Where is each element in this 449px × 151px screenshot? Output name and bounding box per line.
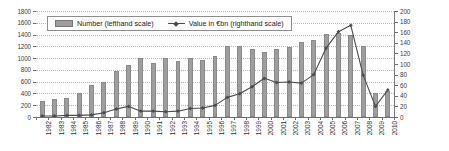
- line-marker-swatch-icon: [168, 20, 185, 27]
- category-label: 2008: [366, 121, 373, 135]
- category-tick-mark: [110, 117, 111, 120]
- right-axis-tick-mark: [395, 11, 398, 12]
- category-label: 2007: [354, 121, 361, 135]
- category-label: 1998: [243, 121, 250, 135]
- right-axis-tick-mark: [395, 53, 398, 54]
- category-tick-mark: [382, 117, 383, 120]
- line-marker: [188, 107, 192, 111]
- right-axis-tick-label: 180: [400, 18, 410, 25]
- right-axis-tick-mark: [395, 64, 398, 65]
- right-axis-tick-mark: [395, 106, 398, 107]
- category-tick-mark: [196, 117, 197, 120]
- left-axis-tick-label: 1600: [0, 19, 31, 26]
- line-marker: [127, 105, 131, 109]
- left-axis-tick-label: 1800: [0, 8, 31, 15]
- category-label: 1983: [58, 121, 65, 135]
- line-marker: [65, 114, 69, 117]
- right-axis-tick-mark: [395, 43, 398, 44]
- line-marker: [53, 114, 57, 117]
- category-label: 1991: [156, 121, 163, 135]
- right-axis-tick-mark: [395, 75, 398, 76]
- category-tick-mark: [98, 117, 99, 120]
- line-marker: [40, 114, 44, 117]
- right-axis-tick-label: 60: [400, 82, 407, 89]
- category-label: 2009: [378, 121, 385, 135]
- category-label: 1994: [193, 121, 200, 135]
- category-tick-mark: [332, 117, 333, 120]
- category-tick-mark: [234, 117, 235, 120]
- right-axis-tick-label: 20: [400, 103, 407, 110]
- category-tick-mark: [320, 117, 321, 120]
- category-label: 2002: [292, 121, 299, 135]
- left-axis-tick-label: 800: [0, 66, 31, 73]
- category-tick-mark: [246, 117, 247, 120]
- category-label: 1999: [255, 121, 262, 135]
- category-tick-mark: [48, 117, 49, 120]
- category-label: 1988: [119, 121, 126, 135]
- line-marker: [275, 81, 279, 85]
- category-tick-mark: [394, 117, 395, 120]
- right-axis-tick-mark: [395, 32, 398, 33]
- line-marker: [164, 110, 168, 114]
- category-tick-mark: [308, 117, 309, 120]
- category-tick-mark: [73, 117, 74, 120]
- category-label: 1997: [230, 121, 237, 135]
- right-axis-tick-mark: [395, 117, 398, 118]
- line-marker: [201, 106, 205, 110]
- right-axis-tick-label: 0: [400, 114, 403, 121]
- category-tick-mark: [357, 117, 358, 120]
- category-label: 2001: [280, 121, 287, 135]
- category-tick-mark: [258, 117, 259, 120]
- right-axis-tick-mark: [395, 85, 398, 86]
- category-label: 1984: [70, 121, 77, 135]
- right-axis-tick-label: 80: [400, 71, 407, 78]
- category-label: 1985: [82, 121, 89, 135]
- left-axis-tick-label: 0: [0, 114, 31, 121]
- line-marker: [287, 80, 291, 84]
- value-line: [42, 25, 388, 116]
- line-marker: [176, 109, 180, 113]
- line-marker: [361, 73, 365, 77]
- category-label: 2010: [391, 121, 398, 135]
- left-axis-tick-label: 1000: [0, 55, 31, 62]
- category-label: 2000: [267, 121, 274, 135]
- category-label: 1990: [144, 121, 151, 135]
- chart-legend: Number (lefthand scale) Value in €bn (ri…: [47, 16, 292, 31]
- right-axis-tick-label: 140: [400, 39, 410, 46]
- legend-item-value: Value in €bn (righthand scale): [168, 19, 284, 28]
- legend-label-number: Number (lefthand scale): [77, 19, 154, 28]
- left-axis-tick-label: 200: [0, 102, 31, 109]
- category-label: 1995: [206, 121, 213, 135]
- category-label: 2006: [341, 121, 348, 135]
- category-tick-mark: [283, 117, 284, 120]
- category-tick-mark: [184, 117, 185, 120]
- line-marker: [77, 114, 81, 117]
- right-axis-tick-label: 40: [400, 92, 407, 99]
- category-tick-mark: [172, 117, 173, 120]
- combo-chart: 020040060080010001200140016001800 020406…: [0, 0, 449, 151]
- right-axis-line: [394, 11, 395, 118]
- category-tick-mark: [61, 117, 62, 120]
- category-tick-mark: [159, 117, 160, 120]
- category-tick-mark: [271, 117, 272, 120]
- line-marker: [349, 23, 353, 27]
- right-axis-tick-mark: [395, 96, 398, 97]
- category-tick-mark: [209, 117, 210, 120]
- left-axis-tick-label: 600: [0, 78, 31, 85]
- line-marker: [114, 107, 118, 111]
- category-tick-mark: [369, 117, 370, 120]
- category-label: 2004: [317, 121, 324, 135]
- category-tick-mark: [135, 117, 136, 120]
- category-tick-mark: [221, 117, 222, 120]
- left-axis-tick-label: 400: [0, 90, 31, 97]
- category-label: 1989: [132, 121, 139, 135]
- category-label: 1993: [181, 121, 188, 135]
- left-axis-tick-label: 1400: [0, 31, 31, 38]
- category-tick-mark: [295, 117, 296, 120]
- line-marker: [90, 113, 94, 117]
- right-axis-tick-label: 100: [400, 61, 410, 68]
- category-label: 1987: [107, 121, 114, 135]
- category-label: 2005: [329, 121, 336, 135]
- right-axis-tick-label: 120: [400, 50, 410, 57]
- right-axis-tick-label: 160: [400, 29, 410, 36]
